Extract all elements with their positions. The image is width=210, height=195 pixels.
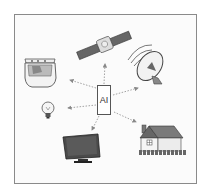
arrow-to-monitor xyxy=(92,116,99,130)
arrow-to-satellite xyxy=(104,64,105,84)
monitor-icon xyxy=(63,134,100,163)
house-icon xyxy=(139,125,186,155)
arrow-to-satellite-dish xyxy=(113,88,138,95)
satellite-dish-icon xyxy=(128,45,168,85)
arrow-to-washing-machine xyxy=(70,80,96,88)
washing-machine-icon xyxy=(25,59,56,87)
light-bulb-icon xyxy=(42,102,54,119)
ai-center-node: AI xyxy=(97,85,111,115)
ai-label: AI xyxy=(100,95,109,105)
arrow-to-light-bulb xyxy=(68,105,96,108)
satellite-icon xyxy=(75,28,132,61)
arrow-to-house xyxy=(114,112,136,122)
